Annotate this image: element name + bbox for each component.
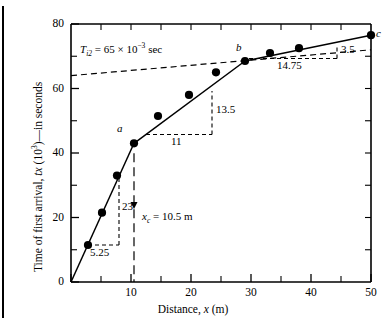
intercept-time-equation: Ti2 = 65 × 10−3 sec xyxy=(80,42,162,57)
x-tick-20: 20 xyxy=(181,287,201,299)
y-axis-title-pre: Time of first arrival, xyxy=(32,176,44,272)
data-point xyxy=(185,91,193,99)
data-point xyxy=(295,44,303,52)
xc-value: = 10.5 m xyxy=(150,210,192,222)
slope3-run-label: 14.75 xyxy=(277,60,302,71)
figure-container: 0 20 40 60 80 10 20 30 40 50 Distance, x… xyxy=(0,0,387,322)
breakpoint-label-c: c xyxy=(376,28,381,39)
x-axis-title: Distance, x (m) xyxy=(158,304,229,316)
chart-canvas xyxy=(0,0,387,322)
y-axis-title-exponent: 3 xyxy=(30,145,39,149)
data-point xyxy=(98,209,106,217)
x-axis-title-post: (m) xyxy=(209,303,228,315)
data-point xyxy=(367,31,375,39)
slope1-run-label: 5.25 xyxy=(90,247,109,258)
data-point xyxy=(154,112,162,120)
x-tick-30: 30 xyxy=(241,287,261,299)
x-axis-title-pre: Distance, xyxy=(158,303,204,315)
y-axis-title-paren: (10 xyxy=(32,149,44,167)
y-tick-0: 0 xyxy=(38,276,64,288)
x-tick-50: 50 xyxy=(361,287,381,299)
slope2-run-label: 11 xyxy=(171,136,182,147)
breakpoint-label-a: a xyxy=(117,123,123,134)
data-point xyxy=(212,68,220,76)
data-point xyxy=(241,57,249,65)
intercept-eq-mid: = 65 × 10 xyxy=(92,43,137,55)
y-tick-80: 80 xyxy=(38,18,64,30)
intercept-eq-unit: sec xyxy=(145,43,162,55)
slope3-rise-label: 3.5 xyxy=(341,44,355,55)
data-point xyxy=(266,49,274,57)
x-top-ticks xyxy=(101,24,341,30)
breakpoint-label-b: b xyxy=(236,42,242,53)
y-axis-title-var: tx xyxy=(32,167,44,175)
data-point xyxy=(113,172,121,180)
slope1-rise-label: 23 xyxy=(122,201,133,212)
y-axis-title: Time of first arrival, tx (103)—in secon… xyxy=(30,82,44,272)
data-points xyxy=(84,31,375,249)
crossover-distance-label: xc = 10.5 m xyxy=(142,211,193,225)
y-axis-title-post: )—in seconds xyxy=(32,82,44,146)
data-point xyxy=(130,139,138,147)
x-tick-10: 10 xyxy=(121,287,141,299)
x-minor-ticks xyxy=(101,276,341,282)
slope2-rise-label: 13.5 xyxy=(216,104,235,115)
y-right-ticks xyxy=(365,56,371,250)
x-tick-40: 40 xyxy=(301,287,321,299)
y-major-ticks xyxy=(71,24,79,282)
